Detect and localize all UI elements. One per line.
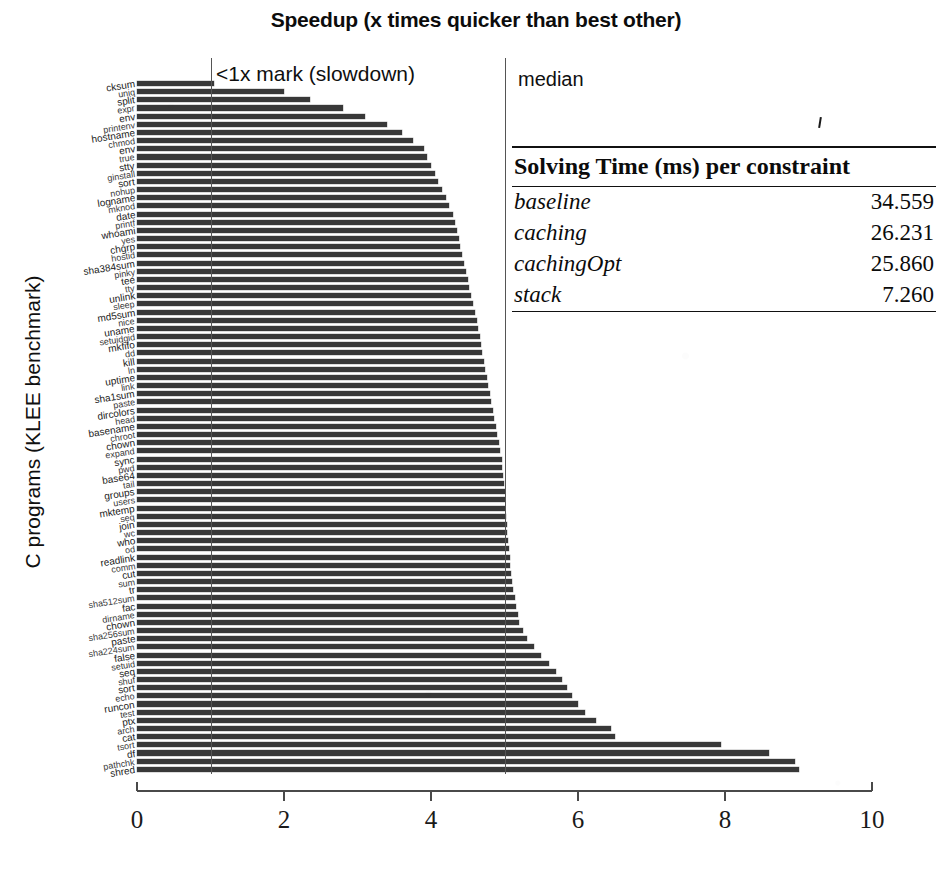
bar: [137, 734, 615, 739]
bar: [137, 612, 518, 617]
bar: [137, 742, 721, 747]
table-body: baseline34.559caching26.231cachingOpt25.…: [512, 187, 936, 312]
bar: [137, 759, 795, 764]
table-cell-value: 26.231: [776, 218, 936, 249]
x-axis-tick-label: 8: [719, 806, 732, 834]
bar: [137, 538, 508, 543]
table-row: stack7.260: [512, 280, 936, 311]
table-cell-value: 7.260: [776, 280, 936, 311]
x-axis-line: [137, 790, 872, 792]
bar: [137, 228, 457, 233]
bar: [137, 195, 446, 200]
bar: [137, 718, 596, 723]
bar: [137, 367, 485, 372]
bar: [137, 252, 462, 257]
bar: [137, 114, 365, 119]
bar: [137, 277, 468, 282]
bar: [137, 644, 534, 649]
bar: [137, 604, 516, 609]
bar: [137, 293, 471, 298]
solving-time-table: Solving Time (ms) per constraint baselin…: [512, 146, 936, 312]
bar: [137, 97, 310, 102]
x-axis-tick-label: 4: [425, 806, 438, 834]
table-cell-name: stack: [512, 280, 776, 311]
bar: [137, 481, 504, 486]
bar: [137, 399, 491, 404]
bar: [137, 424, 496, 429]
bar: [137, 710, 585, 715]
bar: [137, 571, 511, 576]
bar: [137, 497, 505, 502]
bar: [137, 726, 611, 731]
table-cell-name: cachingOpt: [512, 249, 776, 280]
bar: [137, 416, 494, 421]
x-axis-tick-label: 6: [572, 806, 585, 834]
bar: [137, 154, 427, 159]
x-axis-tick: [871, 782, 873, 791]
x-axis-tick-label: 2: [278, 806, 291, 834]
bar: [137, 465, 502, 470]
bar: [137, 555, 510, 560]
slowdown-annotation-label: <1x mark (slowdown): [216, 62, 415, 86]
bar: [137, 530, 507, 535]
reference-line-slowdown: [211, 58, 212, 774]
bar: [137, 310, 475, 315]
bar: [137, 334, 480, 339]
bar: [137, 171, 435, 176]
table-row: baseline34.559: [512, 187, 936, 219]
bar: [137, 750, 769, 755]
bar: [137, 677, 562, 682]
bar: [137, 138, 413, 143]
bar: [137, 628, 523, 633]
table-cell-name: caching: [512, 218, 776, 249]
table-header-row: Solving Time (ms) per constraint: [512, 148, 936, 187]
x-axis-tick-label: 0: [131, 806, 144, 834]
bar: [137, 359, 484, 364]
bar: [137, 506, 505, 511]
bar: [137, 122, 387, 127]
bar: [137, 350, 482, 355]
y-axis-tick-label: shred: [110, 765, 136, 779]
bar: [137, 669, 556, 674]
bar: [137, 203, 449, 208]
table-row: caching26.231: [512, 218, 936, 249]
bar: [137, 522, 507, 527]
bar: [137, 130, 402, 135]
bar: [137, 244, 460, 249]
bar: [137, 473, 503, 478]
bar: [137, 408, 493, 413]
bar: [137, 636, 527, 641]
bar: [137, 432, 497, 437]
bar: [137, 767, 799, 772]
bar: [137, 579, 512, 584]
solving-time-table-grid: Solving Time (ms) per constraint baselin…: [512, 148, 936, 311]
bar: [137, 187, 442, 192]
bar: [137, 620, 519, 625]
x-axis-tick: [724, 790, 726, 801]
bar: [137, 448, 500, 453]
bar: [137, 701, 578, 706]
bar: [137, 587, 513, 592]
bar: [137, 146, 424, 151]
y-axis-tick-labels: cksumuniqsplitexprenvprintenvhostnamechm…: [0, 80, 137, 774]
bar: [137, 236, 459, 241]
table-row: cachingOpt25.860: [512, 249, 936, 280]
bar: [137, 489, 505, 494]
x-axis-tick: [136, 782, 138, 791]
bar: [137, 661, 549, 666]
bar: [137, 693, 572, 698]
bar: [137, 375, 487, 380]
bar: [137, 653, 541, 658]
bar: [137, 285, 469, 290]
bar: [137, 342, 481, 347]
bar: [137, 563, 510, 568]
bar: [137, 383, 488, 388]
x-axis-tick: [283, 790, 285, 801]
bar: [137, 318, 477, 323]
bar: [137, 685, 567, 690]
x-axis-tick: [430, 790, 432, 801]
bar: [137, 326, 478, 331]
bar: [137, 261, 464, 266]
bar: [137, 220, 455, 225]
bar: [137, 595, 515, 600]
